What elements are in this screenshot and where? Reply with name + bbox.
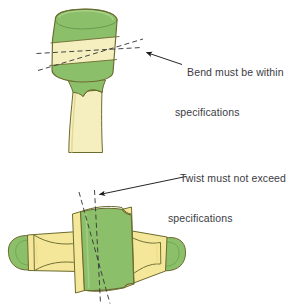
bend-callout-line2: specifications [175, 106, 284, 120]
diagram-canvas [0, 0, 286, 306]
technical-illustration: Bend must be within specifications Twist… [0, 0, 286, 306]
bottom-figure-group [8, 177, 186, 304]
twist-callout-line2: specifications [168, 212, 286, 226]
component-stem [69, 90, 103, 153]
left-arm-body [28, 232, 81, 272]
top-figure-group [37, 4, 183, 153]
left-arm [28, 232, 81, 272]
twist-callout-text: Twist must not exceed specifications [168, 158, 286, 253]
twist-callout-line1: Twist must not exceed [180, 172, 286, 184]
bend-callout-text: Bend must be within specifications [175, 52, 284, 147]
left-arm-shoulder-line [34, 235, 35, 271]
left-end-cap [8, 236, 30, 271]
component-head [46, 4, 122, 92]
left-arm-shade [37, 243, 38, 264]
bend-callout-line1: Bend must be within [187, 66, 284, 78]
